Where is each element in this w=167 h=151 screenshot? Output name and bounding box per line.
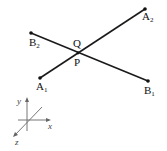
axis-label-z: z	[14, 137, 19, 147]
label-b2: B2	[29, 36, 40, 50]
point-b1	[146, 79, 150, 83]
label-p: P	[74, 56, 80, 68]
intersection-point	[77, 52, 80, 55]
axis-label-y: y	[16, 96, 21, 106]
label-a2: A2	[142, 10, 154, 24]
label-q: Q	[73, 37, 81, 49]
point-b2	[29, 31, 33, 35]
axis-label-x: x	[47, 121, 52, 131]
label-b1: B1	[144, 84, 155, 98]
label-a1: A1	[36, 80, 48, 94]
line-segments-diagram: A2 B2 Q P A1 B1 y x z	[0, 0, 167, 151]
segment-b	[31, 33, 148, 81]
